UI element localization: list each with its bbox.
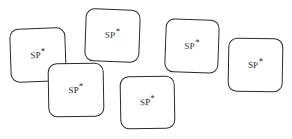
diagram-canvas: SP*SP*SP*SP*SP*SP* xyxy=(0,0,292,139)
sp-node-label: SP* xyxy=(105,31,120,41)
sp-node-label-superscript: * xyxy=(258,56,263,66)
sp-node-label-text: SP xyxy=(248,59,259,69)
sp-node-label-superscript: * xyxy=(195,37,200,47)
sp-node-label-superscript: * xyxy=(150,93,155,103)
sp-node[interactable]: SP* xyxy=(48,63,105,118)
sp-node[interactable]: SP* xyxy=(120,76,176,130)
sp-node-label: SP* xyxy=(140,98,155,107)
sp-node-label-superscript: * xyxy=(41,45,46,55)
sp-node[interactable]: SP* xyxy=(228,38,284,93)
sp-node-label-text: SP xyxy=(30,49,41,59)
sp-node[interactable]: SP* xyxy=(84,8,141,63)
sp-node-label: SP* xyxy=(184,41,199,51)
sp-node-label: SP* xyxy=(248,60,263,69)
sp-node-label-text: SP xyxy=(184,40,195,50)
sp-node-label-superscript: * xyxy=(79,80,84,90)
sp-node-label: SP* xyxy=(68,85,83,94)
sp-node-label-text: SP xyxy=(105,30,116,40)
sp-node[interactable]: SP* xyxy=(164,18,220,74)
sp-node-label-superscript: * xyxy=(115,26,120,36)
sp-node-label-text: SP xyxy=(68,84,79,94)
sp-node-label-text: SP xyxy=(140,97,151,107)
sp-node-label: SP* xyxy=(30,50,45,60)
